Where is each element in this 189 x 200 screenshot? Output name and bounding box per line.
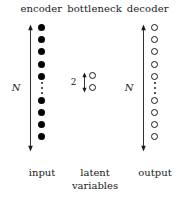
autoencoder-diagram: encoder bottleneck decoder N: [0, 0, 189, 200]
encoder-dimension-label: N: [8, 82, 24, 93]
latent-node: [89, 72, 96, 79]
encoder-ellipsis-icon: [41, 80, 43, 97]
decoder-node-column: [151, 24, 158, 140]
stage-heading-encoder: encoder: [20, 3, 62, 15]
bottleneck-dimension-arrow: [80, 72, 89, 93]
decoder-node: [151, 121, 158, 128]
stage-heading-decoder: decoder: [127, 3, 169, 15]
decoder-node: [151, 73, 158, 80]
latent-node: [89, 84, 96, 91]
decoder-dimension-arrow: [139, 24, 148, 152]
encoder-node: [38, 133, 45, 140]
bottleneck-node-column: [89, 72, 96, 91]
decoder-node: [151, 97, 158, 104]
stage-heading-bottleneck: bottleneck: [67, 3, 122, 15]
encoder-node: [38, 24, 45, 31]
decoder-node: [151, 24, 158, 31]
decoder-node: [151, 133, 158, 140]
encoder-node: [38, 73, 45, 80]
encoder-node: [38, 121, 45, 128]
bottleneck-dimension-label: 2: [68, 77, 79, 88]
encoder-node: [38, 48, 45, 55]
encoder-node: [38, 36, 45, 43]
decoder-ellipsis-icon: [154, 80, 156, 97]
caption-input: input: [14, 166, 70, 179]
decoder-node: [151, 48, 158, 55]
decoder-dimension-label: N: [121, 82, 137, 93]
encoder-node: [38, 109, 45, 116]
encoder-node: [38, 97, 45, 104]
decoder-node: [151, 109, 158, 116]
decoder-node: [151, 61, 158, 68]
encoder-dimension-arrow: [26, 24, 35, 152]
caption-latent-variables: latent variables: [64, 166, 126, 192]
decoder-node: [151, 36, 158, 43]
encoder-node: [38, 61, 45, 68]
encoder-node-column: [38, 24, 45, 140]
stage-headings-row: encoder bottleneck decoder: [0, 3, 189, 15]
caption-output: output: [126, 166, 184, 179]
